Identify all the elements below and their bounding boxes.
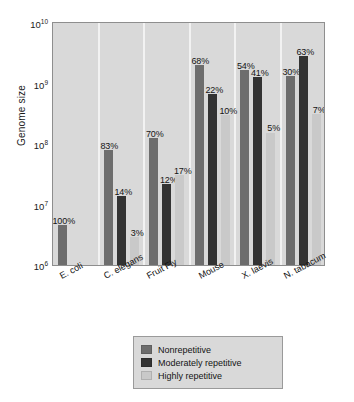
bar-value-label: 10%: [219, 106, 237, 116]
legend-swatch-highly-repetitive: [141, 371, 152, 380]
bar-value-label: 83%: [100, 141, 118, 151]
bar-c-elegans-moderately-repetitive: [117, 196, 126, 265]
legend-label-nonrepetitive: Nonrepetitive: [158, 345, 211, 355]
bar-value-label: 22%: [205, 85, 223, 95]
y-axis-tick-9: 109: [0, 78, 48, 90]
legend-item: Nonrepetitive: [141, 343, 274, 356]
bar-c-elegans-nonrepetitive: [104, 150, 113, 265]
bar-value-label: 5%: [267, 123, 280, 133]
legend-swatch-nonrepetitive: [141, 345, 152, 354]
bar-fruit-fly-highly-repetitive: [175, 175, 184, 265]
bar-fruit-fly-moderately-repetitive: [162, 184, 171, 265]
bar-n-tabacum-moderately-repetitive: [299, 56, 308, 265]
genome-size-bar-chart: Genome size 1010109108107106 100%83%14%3…: [0, 0, 354, 402]
bar-value-label: 70%: [146, 129, 164, 139]
group-separator: [189, 23, 191, 265]
bar-value-label: 68%: [191, 56, 209, 66]
bar-x-laevis-highly-repetitive: [266, 133, 275, 266]
bar-value-label: 63%: [296, 47, 314, 57]
bar-value-label: 14%: [114, 187, 132, 197]
group-separator: [234, 23, 236, 265]
bar-fruit-fly-nonrepetitive: [149, 138, 158, 265]
plot-area: 100%83%14%3%70%12%17%68%22%10%54%41%5%30…: [52, 22, 325, 266]
legend-swatch-moderately-repetitive: [141, 358, 152, 367]
bar-n-tabacum-highly-repetitive: [312, 114, 321, 265]
group-separator: [98, 23, 100, 265]
bar-value-label: 3%: [131, 228, 144, 238]
bar-e-coli-nonrepetitive: [58, 225, 67, 265]
bar-x-laevis-moderately-repetitive: [253, 77, 262, 265]
legend: Nonrepetitive Moderately repetitive High…: [133, 336, 283, 389]
y-axis-tick-6: 106: [0, 260, 48, 272]
legend-label-highly-repetitive: Highly repetitive: [158, 371, 222, 381]
y-axis-tick-8: 108: [0, 139, 48, 151]
y-axis-tick-10: 1010: [0, 18, 48, 30]
bar-x-laevis-nonrepetitive: [240, 70, 249, 265]
bar-mouse-highly-repetitive: [221, 115, 230, 265]
legend-item: Moderately repetitive: [141, 356, 274, 369]
bar-value-label: 100%: [52, 216, 75, 226]
bar-mouse-moderately-repetitive: [208, 94, 217, 265]
bar-value-label: 30%: [282, 67, 300, 77]
bar-n-tabacum-nonrepetitive: [286, 76, 295, 265]
bar-value-label: 41%: [251, 68, 269, 78]
bar-value-label: 7%: [313, 105, 325, 115]
bar-value-label: 17%: [174, 166, 192, 176]
legend-item: Highly repetitive: [141, 369, 274, 382]
group-separator: [280, 23, 282, 265]
y-axis-title: Genome size: [16, 61, 27, 171]
bar-mouse-nonrepetitive: [195, 65, 204, 265]
legend-label-moderately-repetitive: Moderately repetitive: [158, 358, 242, 368]
y-axis-tick-7: 107: [0, 199, 48, 211]
